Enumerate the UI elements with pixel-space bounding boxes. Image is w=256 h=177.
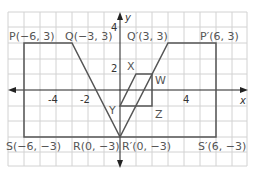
x-tick-neg4: -4	[48, 94, 58, 105]
label-r: R(0, −3)	[73, 140, 119, 153]
label-p: P(−6, 3)	[9, 30, 54, 43]
y-axis-label: y	[124, 12, 132, 23]
label-q: Q(−3, 3)	[65, 30, 112, 43]
label-s: S(−6, −3)	[6, 140, 61, 153]
coordinate-plane: x y -4 -2 4 4 2 P(−6, 3) Q(−3, 3) R(0, −…	[0, 0, 256, 177]
x-tick-4: 4	[183, 94, 189, 105]
label-p-prime: P′(6, 3)	[200, 30, 239, 43]
label-q-prime: Q′(3, 3)	[127, 30, 168, 43]
x-tick-neg2: -2	[80, 94, 90, 105]
x-axis-arrow-left-icon	[8, 87, 16, 93]
label-s-prime: S′(6, −3)	[198, 140, 246, 153]
y-axis-arrow-up-icon	[117, 12, 123, 20]
x-axis-label: x	[239, 95, 246, 106]
label-z: Z	[155, 108, 163, 121]
label-x: X	[127, 60, 135, 73]
label-r-prime: R′(0, −3)	[122, 140, 171, 153]
label-w: W	[155, 74, 166, 87]
y-tick-2: 2	[111, 63, 117, 74]
y-axis-arrow-down-icon	[117, 160, 123, 168]
label-y: Y	[108, 104, 116, 117]
